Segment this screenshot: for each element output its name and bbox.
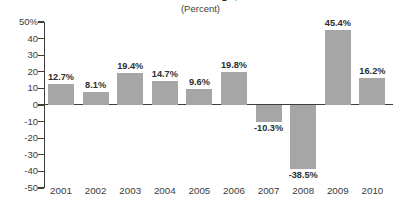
bar [325, 30, 351, 105]
y-tick-label: -10 [4, 117, 38, 127]
y-tick-label: 40 [4, 34, 38, 44]
bar [221, 72, 247, 105]
y-tick-mark [38, 38, 44, 39]
x-tick-label: 2008 [284, 186, 322, 196]
bar-chart: Annual Percent Change, 2001-2010 (Percen… [0, 0, 401, 201]
y-tick-mark [38, 88, 44, 89]
bar-value-label: 8.1% [74, 81, 118, 90]
x-tick-label: 2004 [146, 186, 184, 196]
y-tick-label: 50% [4, 17, 38, 27]
bar [117, 73, 143, 105]
y-tick-mark [38, 154, 44, 155]
bar [83, 92, 109, 105]
plot-area: 50%403020100-10-20-30-40-50 12.7%8.1%19.… [0, 0, 401, 201]
x-tick-label: 2006 [215, 186, 253, 196]
bar [152, 81, 178, 105]
y-tick-label: 20 [4, 67, 38, 77]
x-tick-label: 2007 [250, 186, 288, 196]
bar-value-label: -10.3% [247, 124, 291, 133]
y-tick-label: 0 [4, 100, 38, 110]
bar [359, 78, 385, 105]
bar-value-label: 16.2% [350, 67, 394, 76]
y-tick-label: -30 [4, 150, 38, 160]
x-tick-label: 2009 [319, 186, 357, 196]
y-tick-mark [38, 21, 44, 22]
x-tick-label: 2003 [111, 186, 149, 196]
bar [256, 105, 282, 122]
y-tick-label: 10 [4, 83, 38, 93]
bar-value-label: -38.5% [281, 171, 325, 180]
bar [290, 105, 316, 169]
y-tick-label: -20 [4, 133, 38, 143]
y-tick-mark [38, 104, 44, 105]
y-tick-label: 30 [4, 50, 38, 60]
x-tick-label: 2002 [77, 186, 115, 196]
y-tick-mark [38, 121, 44, 122]
y-tick-label: -50 [4, 183, 38, 193]
bar [186, 89, 212, 105]
bar [48, 84, 74, 105]
x-tick-label: 2001 [42, 186, 80, 196]
y-tick-mark [38, 171, 44, 172]
bar-value-label: 45.4% [316, 19, 360, 28]
y-tick-mark [38, 138, 44, 139]
bar-value-label: 19.8% [212, 61, 256, 70]
x-tick-label: 2005 [180, 186, 218, 196]
y-tick-mark [38, 55, 44, 56]
y-tick-label: -40 [4, 166, 38, 176]
x-tick-label: 2010 [353, 186, 391, 196]
bar-value-label: 9.6% [177, 78, 221, 87]
